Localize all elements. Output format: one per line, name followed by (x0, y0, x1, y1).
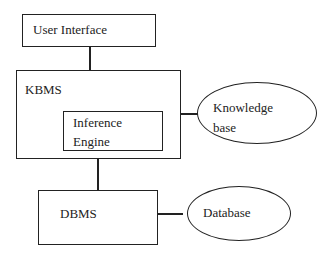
dbms-box (38, 190, 158, 245)
knowledge-base-label-line1: Knowledge (213, 100, 273, 116)
database-label: Database (203, 205, 251, 221)
user-interface-label: User Interface (33, 22, 107, 38)
dbms-label: DBMS (60, 206, 97, 222)
connector-kbms-knowledge-base (180, 113, 198, 115)
inference-engine-label-line1: Inference (73, 115, 122, 131)
inference-engine-label-line2: Engine (73, 134, 110, 150)
knowledge-base-label-line2: base (213, 120, 236, 136)
connector-dbms-database (158, 213, 183, 215)
connector-ui-kbms (89, 47, 91, 71)
kbms-label: KBMS (25, 82, 62, 98)
connector-kbms-dbms (97, 158, 99, 191)
